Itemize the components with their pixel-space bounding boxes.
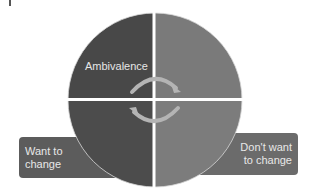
vertical-divider	[153, 5, 156, 193]
ambivalence-diagram: Want to change Don't want to change Ambi…	[0, 0, 314, 193]
ambivalence-label: Ambivalence	[85, 60, 147, 73]
quadrant-circle	[0, 0, 314, 193]
bottom-left-quadrant	[60, 100, 155, 193]
